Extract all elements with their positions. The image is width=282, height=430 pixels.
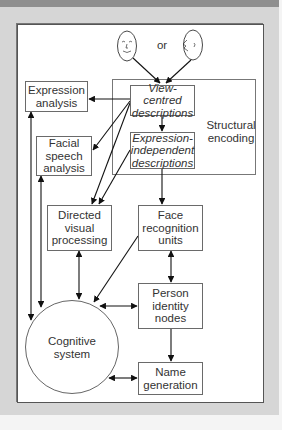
front-face-icon [118,31,137,61]
directed-visual-processing-box: Directed visual processing [47,205,112,251]
expression-independent-descriptions-box: Expression- independent descriptions [130,132,195,169]
facial-speech-analysis-box: Facial speech analysis [36,136,92,176]
name-generation-box: Name generation [138,362,203,395]
expression-analysis-box: Expression analysis [25,81,88,112]
profile-face-icon [183,30,203,60]
face-recognition-units-box: Face recognition units [138,205,203,251]
view-centred-descriptions-box: View-centred descriptions [130,85,195,116]
person-identity-nodes-box: Person identity nodes [138,283,203,329]
or-label: or [150,39,174,52]
cognitive-system-label: Cognitive system [37,335,107,360]
